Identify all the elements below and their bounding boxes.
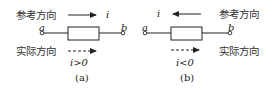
terminal-a-label: a <box>142 22 148 34</box>
current-symbol: i <box>106 9 109 21</box>
reference-direction-label: 参考方向 <box>16 9 56 21</box>
terminal-b-label: b <box>121 22 127 34</box>
actual-direction-label: 实际方向 <box>16 45 56 57</box>
reference-direction-label: 参考方向 <box>219 8 259 20</box>
condition-label: i>0 <box>70 57 88 69</box>
caption-a: (a) <box>75 72 89 84</box>
resistor-b <box>171 27 202 40</box>
actual-direction-label: 实际方向 <box>219 45 259 57</box>
terminal-a-label: a <box>39 22 45 34</box>
resistor-a <box>68 27 99 40</box>
current-symbol: i <box>157 8 160 20</box>
condition-label: i<0 <box>176 57 194 69</box>
terminal-b-label: b <box>228 22 234 34</box>
caption-b: (b) <box>180 72 194 84</box>
